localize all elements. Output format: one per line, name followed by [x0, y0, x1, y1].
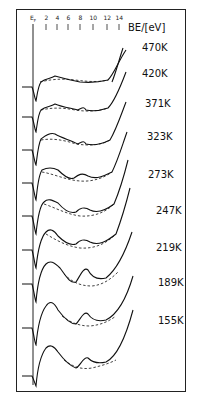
tick-label-4: 4: [56, 14, 60, 21]
temp-label-189k: 189K: [158, 277, 184, 288]
tick-label-14: 14: [116, 14, 124, 21]
spectra-curves: [22, 48, 133, 386]
temp-label-470k: 470K: [142, 42, 168, 53]
spectra-chart: EF 2 4 6 8 10 12 14 BE/[eV]: [0, 0, 199, 399]
temp-label-247k: 247K: [156, 205, 182, 216]
tick-label-10: 10: [90, 14, 98, 21]
tick-label-2: 2: [45, 14, 49, 21]
tick-label-12: 12: [104, 14, 112, 21]
x-axis-label: BE/[eV]: [128, 22, 165, 33]
temp-label-273k: 273K: [148, 169, 174, 180]
temp-label-371k: 371K: [145, 98, 171, 109]
tick-label-8: 8: [79, 14, 83, 21]
temp-label-420k: 420K: [142, 68, 168, 79]
tick-marks: [46, 24, 119, 30]
tick-label-6: 6: [67, 14, 71, 21]
temp-label-155k: 155K: [158, 315, 184, 326]
ef-tick-label: EF: [30, 14, 37, 23]
temp-label-323k: 323K: [147, 131, 173, 142]
temp-label-219k: 219K: [156, 242, 182, 253]
